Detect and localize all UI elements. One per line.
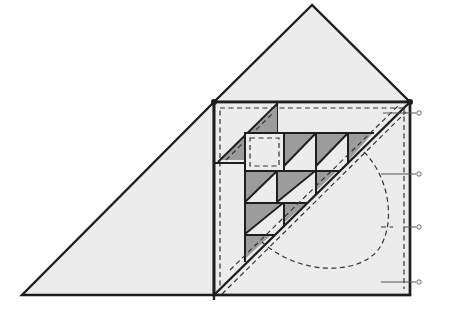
quilt-diagram <box>0 0 459 323</box>
light-square-1 <box>245 133 284 171</box>
corner-marker-right <box>407 99 413 105</box>
diagram-canvas <box>0 0 459 323</box>
corner-marker-left <box>211 99 217 105</box>
left-triangle <box>22 102 214 295</box>
top-triangle <box>214 5 410 102</box>
